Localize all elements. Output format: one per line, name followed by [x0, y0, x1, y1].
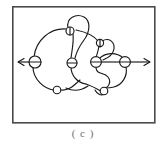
knot-diagram-svg — [0, 0, 166, 152]
vertex-node-v7 — [53, 86, 61, 94]
figure-container: ( c ) — [0, 0, 166, 152]
vertex-node-v8 — [100, 87, 108, 95]
